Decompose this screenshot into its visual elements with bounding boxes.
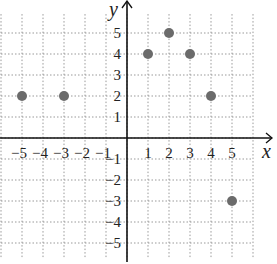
y-tick-label: −4 xyxy=(105,214,121,230)
y-tick-label: 1 xyxy=(114,109,122,125)
y-tick-label: −2 xyxy=(105,172,121,188)
data-point xyxy=(17,91,27,101)
y-tick-label: −1 xyxy=(105,151,121,167)
data-point xyxy=(206,91,216,101)
x-tick-label: −5 xyxy=(11,145,27,161)
data-point xyxy=(59,91,69,101)
y-axis-label: y xyxy=(107,0,118,21)
data-point xyxy=(143,49,153,59)
x-axis-label: x xyxy=(261,140,271,162)
y-tick-label: −5 xyxy=(105,235,121,251)
y-tick-label: −3 xyxy=(105,193,121,209)
x-tick-label: −4 xyxy=(32,145,48,161)
x-tick-label: 2 xyxy=(165,145,173,161)
x-tick-label: 1 xyxy=(144,145,152,161)
axes xyxy=(0,1,272,262)
y-tick-label: 4 xyxy=(114,46,122,62)
scatter-plot: −5−4−3−2−11234554321−1−2−3−4−5 x y xyxy=(0,0,277,264)
x-tick-label: −2 xyxy=(74,145,90,161)
data-point xyxy=(185,49,195,59)
y-tick-label: 3 xyxy=(114,67,122,83)
data-point xyxy=(227,196,237,206)
x-tick-label: −3 xyxy=(53,145,69,161)
y-tick-label: 5 xyxy=(114,25,122,41)
data-point xyxy=(164,28,174,38)
x-tick-label: 4 xyxy=(207,145,215,161)
x-tick-label: 5 xyxy=(228,145,236,161)
x-tick-label: 3 xyxy=(186,145,194,161)
y-tick-label: 2 xyxy=(114,88,122,104)
